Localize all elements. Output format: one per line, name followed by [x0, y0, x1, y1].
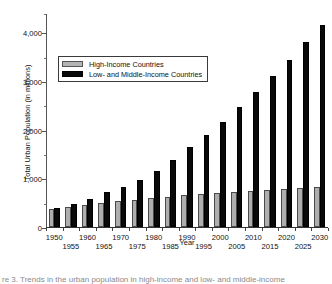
- bar-low-middle-income-2005: [237, 107, 243, 227]
- y-tick-label: 0: [0, 224, 42, 233]
- bar-low-middle-income-1975: [137, 180, 143, 227]
- y-tick-label: 2,000: [0, 127, 42, 136]
- x-tick: [162, 228, 163, 231]
- legend-item-low-middle-income: Low- and Middle-Income Countries: [62, 69, 202, 79]
- bar-low-middle-income-2000: [220, 122, 226, 227]
- bar-low-middle-income-2025: [303, 42, 309, 227]
- bar-low-middle-income-2030: [320, 25, 326, 227]
- x-tick: [311, 228, 312, 231]
- legend-label-low-middle-income: Low- and Middle-Income Countries: [89, 70, 202, 79]
- x-tick: [278, 228, 279, 231]
- bar-low-middle-income-2010: [253, 92, 259, 227]
- legend-item-high-income: High-Income Countries: [62, 59, 202, 69]
- x-tick: [112, 228, 113, 231]
- y-tick-label: 1,000: [0, 175, 42, 184]
- bar-low-middle-income-1965: [104, 192, 110, 227]
- x-tick: [262, 228, 263, 231]
- bar-low-middle-income-1950: [54, 208, 60, 227]
- legend-swatch-high-income: [62, 61, 83, 67]
- figure-caption-text: re 3. Trends in the urban population in …: [0, 276, 332, 284]
- bar-low-middle-income-1985: [170, 160, 176, 227]
- x-axis-title: Year: [46, 238, 328, 247]
- x-tick: [245, 228, 246, 231]
- x-tick: [295, 228, 296, 231]
- bar-low-middle-income-1980: [154, 171, 160, 227]
- x-tick: [63, 228, 64, 231]
- bar-low-middle-income-1990: [187, 147, 193, 227]
- y-tick-label: 4,000: [0, 29, 42, 38]
- y-tick-minor: [44, 204, 46, 205]
- bar-low-middle-income-2020: [287, 60, 293, 227]
- x-tick: [212, 228, 213, 231]
- legend-label-high-income: High-Income Countries: [89, 60, 164, 69]
- y-tick-minor: [44, 14, 46, 15]
- y-tick-minor: [44, 58, 46, 59]
- x-tick: [79, 228, 80, 231]
- legend: High-Income Countries Low- and Middle-In…: [58, 56, 208, 82]
- x-tick: [228, 228, 229, 231]
- x-tick: [129, 228, 130, 231]
- y-tick-major: [42, 82, 46, 83]
- plot-area: 1950195519601965197019751980198519901995…: [46, 14, 328, 228]
- y-tick-minor: [44, 106, 46, 107]
- bar-low-middle-income-1960: [87, 199, 93, 227]
- x-axis-line: [46, 227, 328, 228]
- y-tick-minor: [44, 155, 46, 156]
- y-tick-label: 3,000: [0, 78, 42, 87]
- y-tick-major: [42, 33, 46, 34]
- bar-low-middle-income-1995: [204, 135, 210, 227]
- bar-low-middle-income-1970: [121, 187, 127, 227]
- y-axis-line: [46, 14, 47, 228]
- x-tick: [46, 228, 47, 231]
- x-tick: [96, 228, 97, 231]
- bar-low-middle-income-1955: [71, 204, 77, 227]
- x-tick: [328, 228, 329, 231]
- urban-population-bar-chart: Total Urban Population (in millions) 01,…: [0, 0, 332, 284]
- x-tick: [195, 228, 196, 231]
- x-tick: [179, 228, 180, 231]
- legend-swatch-low-middle-income: [62, 71, 83, 77]
- x-tick: [146, 228, 147, 231]
- y-tick-major: [42, 179, 46, 180]
- y-tick-major: [42, 131, 46, 132]
- figure-caption-sliver: re 3. Trends in the urban population in …: [0, 276, 332, 284]
- bar-low-middle-income-2015: [270, 76, 276, 227]
